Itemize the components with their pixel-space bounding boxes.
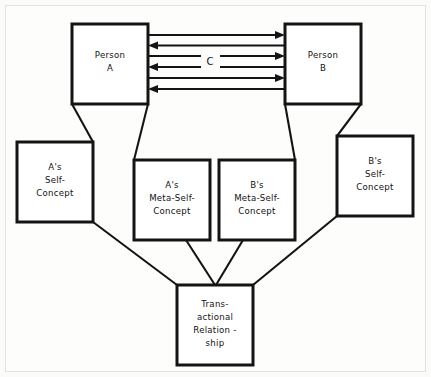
node-label-b-meta-self-concept-line-1: B's (250, 180, 264, 190)
node-transactional-relationship[interactable]: Trans- actional Relation - ship (177, 285, 253, 365)
node-label-b-self-concept-line-1: B's (368, 156, 382, 166)
node-label-person-b-line-1: Person (308, 50, 338, 60)
node-label-person-a-line-1: Person (95, 50, 125, 60)
node-label-b-meta-self-concept-line-3: Concept (238, 206, 276, 216)
node-person-b[interactable]: Person B (285, 24, 361, 104)
node-b-self-concept[interactable]: B's Self- Concept (337, 136, 413, 216)
node-label-transactional-line-4: ship (206, 338, 225, 348)
channel-label-c: C (207, 56, 214, 67)
node-label-a-meta-self-concept-line-2: Meta-Self- (149, 193, 195, 203)
node-label-a-meta-self-concept-line-3: Concept (153, 206, 191, 216)
node-label-transactional-line-2: actional (197, 312, 233, 322)
node-label-person-b-line-2: B (320, 63, 326, 73)
node-label-a-self-concept-line-3: Concept (36, 188, 74, 198)
node-label-b-self-concept-line-3: Concept (356, 182, 394, 192)
node-label-transactional-line-3: Relation - (193, 325, 236, 335)
node-a-self-concept[interactable]: A's Self- Concept (17, 142, 93, 222)
node-a-meta-self-concept[interactable]: A's Meta-Self- Concept (134, 160, 210, 240)
node-label-person-a-line-2: A (107, 63, 113, 73)
node-label-b-self-concept-line-2: Self- (365, 169, 385, 179)
node-label-a-self-concept-line-1: A's (48, 162, 62, 172)
node-label-transactional-line-1: Trans- (200, 299, 228, 309)
diagram-canvas: C Person A Person B A's Self- Concept A'… (0, 0, 431, 377)
node-label-a-meta-self-concept-line-1: A's (165, 180, 179, 190)
node-label-a-self-concept-line-2: Self- (45, 175, 65, 185)
node-person-a[interactable]: Person A (72, 24, 148, 104)
diagram-svg: C Person A Person B A's Self- Concept A'… (0, 0, 431, 377)
node-b-meta-self-concept[interactable]: B's Meta-Self- Concept (219, 160, 295, 240)
node-label-b-meta-self-concept-line-2: Meta-Self- (234, 193, 280, 203)
